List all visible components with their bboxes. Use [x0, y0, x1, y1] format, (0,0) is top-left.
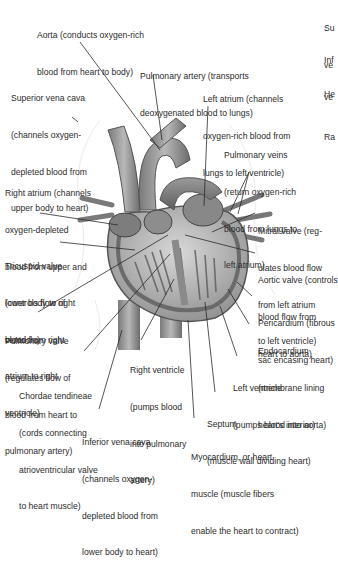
- label-line: Left ventricle: [233, 382, 326, 394]
- label-line: depleted blood from: [82, 510, 158, 522]
- label-line: Endocardium: [258, 345, 324, 357]
- superior-vena-cava-shape: [108, 126, 140, 212]
- label-line: Chordae tendineae: [19, 390, 98, 402]
- label-line: (channels oxygen-: [82, 473, 158, 485]
- label-line: oxygen-depleted: [5, 224, 91, 236]
- label-line: (channels oxygen-: [11, 129, 88, 141]
- label-inferior-vena-cava: Inferior vena cava (channels oxygen- dep…: [82, 412, 158, 561]
- label-line: (return oxygen-rich: [224, 186, 297, 198]
- label-line: Pulmonary veins: [224, 149, 297, 161]
- label-myocardium: Myocardium, or heart muscle (muscle fibe…: [191, 427, 299, 549]
- label-line: Aorta (conducts oxygen-rich: [37, 29, 144, 41]
- edge-fragment-he: He: [324, 64, 335, 113]
- left-atrium-shape: [183, 194, 223, 226]
- label-line: Myocardium, or heart: [191, 451, 299, 463]
- label-line: Tricuspid valve: [5, 260, 65, 272]
- label-line: Mitral valve (reg-: [258, 225, 322, 237]
- label-line: enable the heart to contract): [191, 525, 299, 537]
- label-line: Superior vena cava: [11, 92, 88, 104]
- label-line: (controls flow of: [5, 297, 65, 309]
- label-line: lower body to heart): [82, 546, 158, 558]
- label-line: Left atrium (channels: [203, 93, 290, 105]
- label-line: Inferior vena cava: [82, 436, 158, 448]
- label-line: Aortic valve (controls: [258, 274, 338, 286]
- label-line: Right ventricle: [130, 364, 186, 376]
- label-line: Pulmonary valve: [5, 335, 77, 347]
- valve-ring: [144, 210, 172, 234]
- edge-fragment-ra: Ra: [324, 107, 335, 156]
- label-line: Right atrium (channels: [5, 187, 91, 199]
- label-line: He: [324, 88, 335, 100]
- label-line: muscle (muscle fibers: [191, 488, 299, 500]
- label-line: Ra: [324, 131, 335, 143]
- right-atrium-shape: [109, 213, 141, 237]
